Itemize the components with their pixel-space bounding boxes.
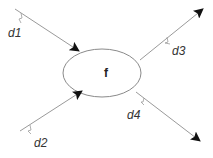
edge-label-d3: d3: [172, 45, 185, 57]
edge-d2: [20, 91, 82, 134]
edge-label-d4: d4: [127, 109, 140, 121]
node-f-ellipse: [63, 49, 141, 97]
zigzag-icon: [141, 98, 144, 105]
zigzag-icon: [19, 13, 22, 23]
node-label: f: [104, 67, 108, 79]
edge-label-d1: d1: [8, 27, 21, 39]
zigzag-icon: [28, 125, 31, 134]
edge-d4: [136, 92, 200, 141]
edge-label-d2: d2: [34, 137, 47, 149]
edge-d1: [15, 9, 79, 51]
zigzag-icon: [165, 37, 170, 44]
